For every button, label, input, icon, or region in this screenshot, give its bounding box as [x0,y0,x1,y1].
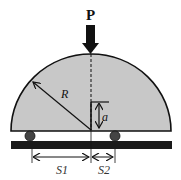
span2-label: S2 [98,163,110,177]
left-roller [25,131,35,141]
three-point-bending-diagram: P R a S1 S2 [0,0,181,180]
height-label: a [102,110,108,124]
load-label: P [86,7,95,23]
right-roller [110,131,120,141]
span1-label: S1 [56,163,68,177]
radius-label: R [60,87,69,101]
base-support-bar [11,141,172,149]
load-arrow-icon [82,25,99,54]
